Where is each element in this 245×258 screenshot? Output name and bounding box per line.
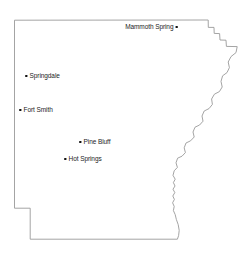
city-label-pine-bluff: Pine Bluff: [84, 138, 111, 146]
city-marker-pine-bluff[interactable]: Pine Bluff: [79, 138, 110, 146]
city-dot-fort-smith: [19, 109, 21, 112]
city-marker-fort-smith[interactable]: Fort Smith: [19, 106, 53, 114]
city-marker-mammoth-spring[interactable]: Mammoth Spring: [21, 23, 178, 31]
city-label-mammoth-spring: Mammoth Spring: [125, 23, 173, 31]
arkansas-border-path: [15, 20, 238, 239]
city-dot-hot-springs: [64, 158, 66, 161]
city-marker-springdale[interactable]: Springdale: [25, 72, 60, 80]
city-dot-pine-bluff: [79, 141, 81, 144]
city-dot-mammoth-spring: [176, 26, 178, 29]
city-label-springdale: Springdale: [30, 72, 60, 80]
state-outline-icon: [0, 0, 245, 258]
arkansas-state-map: Mammoth Spring Springdale Fort Smith Pin…: [0, 0, 245, 258]
city-label-hot-springs: Hot Springs: [69, 155, 102, 163]
city-marker-hot-springs[interactable]: Hot Springs: [64, 155, 102, 163]
city-dot-springdale: [25, 75, 27, 78]
city-label-fort-smith: Fort Smith: [24, 106, 53, 114]
